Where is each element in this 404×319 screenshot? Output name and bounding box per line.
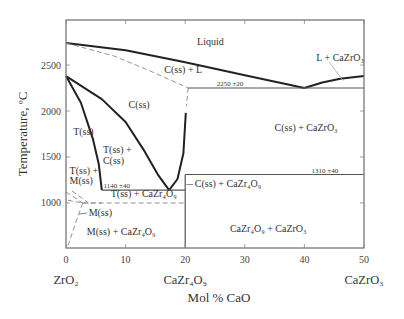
region-label: T(ss) (73, 126, 94, 138)
y-tick-label: 1000 (41, 197, 61, 208)
label-leader-line (79, 213, 87, 214)
boundary-c-boundary-dashed (186, 88, 188, 106)
composition-label: ZrO₂ (53, 273, 78, 287)
y-tick-label: 2000 (41, 106, 61, 117)
boundary-liquidus-right (304, 76, 364, 88)
region-label: M(ss) + CaZr₄O₉ (87, 226, 156, 238)
invariant-temperature-label: 2250 ±20 (217, 80, 244, 88)
x-tick-label: 50 (359, 254, 369, 265)
composition-label: CaZr₄O₉ (163, 273, 206, 287)
region-label: C(ss) + L (164, 64, 202, 76)
x-tick-label: 20 (180, 254, 190, 265)
region-label: C(ss) (103, 155, 124, 167)
boundary-m-boundary (68, 203, 83, 246)
x-tick-label: 10 (121, 254, 131, 265)
boundary-l-cazro3-leader (329, 62, 343, 80)
x-tick-label: 0 (64, 254, 69, 265)
invariant-temperature-label: 1310 ±40 (312, 167, 339, 175)
y-tick-label: 1500 (41, 151, 61, 162)
region-label: C(ss) (129, 99, 150, 111)
boundary-c-right-boundary (169, 113, 186, 190)
region-label: L + CaZrO₃ (316, 52, 364, 63)
region-label: C(ss) + CaZrO₃ (275, 122, 338, 134)
region-label: C(ss) + CaZr₄O₉ (195, 178, 262, 190)
region-label: Liquid (197, 36, 224, 47)
y-tick-label: 2500 (41, 60, 61, 71)
x-tick-label: 40 (299, 254, 309, 265)
labels: ZrO₂CaZr₄O₉CaZrO₃LiquidL + CaZrO₃C(ss) +… (53, 36, 383, 287)
invariant-temperature-label: 1140 ±40 (104, 182, 131, 190)
region-label: M(ss) (70, 175, 93, 187)
x-tick-label: 30 (240, 254, 250, 265)
x-axis-title: Mol % CaO (188, 290, 251, 305)
composition-label: CaZrO₃ (344, 273, 383, 287)
y-axis-title: Temperature, ºC (15, 92, 30, 177)
region-label: CaZr₄O₉ + CaZrO₃ (230, 223, 307, 234)
region-label: M(ss) (89, 207, 112, 219)
phase-diagram: 010203040501000150020002500 ZrO₂CaZr₄O₉C… (0, 0, 404, 319)
